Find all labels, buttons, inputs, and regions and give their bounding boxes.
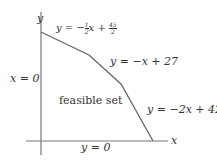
- feasible-set-label: feasible set: [59, 95, 122, 106]
- x-axis-label: x: [171, 135, 177, 146]
- feasible-boundary: [41, 32, 153, 141]
- x-axis-boundary-label: y = 0: [81, 142, 110, 153]
- line1-equation: y = −12x + 452: [56, 22, 117, 35]
- line2-equation: y = −x + 27: [110, 56, 178, 67]
- fraction-45-half: 452: [109, 22, 117, 35]
- y-axis-label: y: [37, 13, 43, 24]
- y-axis-boundary-label: x = 0: [10, 73, 39, 84]
- line3-equation: y = −2x + 42: [147, 104, 217, 115]
